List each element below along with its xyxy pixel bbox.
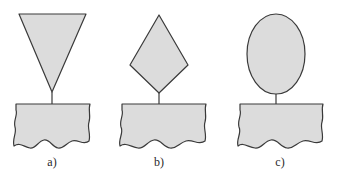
wavy-block-c [238, 104, 323, 148]
wavy-block-b [120, 104, 206, 148]
figure-canvas [0, 0, 340, 179]
ellipse-tip [247, 14, 305, 94]
panel-label-c: c) [260, 155, 300, 170]
panel-a [14, 14, 90, 148]
wavy-block-a [14, 104, 90, 148]
panel-b [120, 15, 206, 148]
panel-label-a: a) [32, 155, 72, 170]
panel-label-b: b) [139, 155, 179, 170]
panel-c [238, 14, 323, 148]
diamond-tip [130, 15, 188, 93]
inverted-triangle-tip [19, 14, 86, 92]
